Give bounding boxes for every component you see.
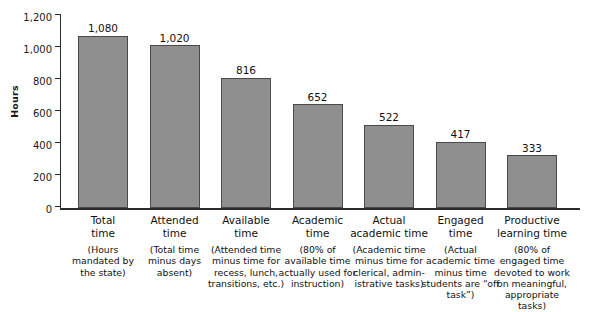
category-label: Actualacademic time(Academic time minus … xyxy=(350,214,428,289)
bar-value-label: 1,080 xyxy=(66,23,140,34)
category-name-line2: time xyxy=(279,227,357,240)
category-description: (Hours mandated by the state) xyxy=(64,244,142,278)
category-description: (Actual academic time minus time student… xyxy=(422,244,500,300)
category-name-line1: Productive xyxy=(493,214,571,227)
y-tick-400 xyxy=(55,142,61,143)
y-tick-800 xyxy=(55,78,61,79)
bar-value-label: 417 xyxy=(424,129,498,140)
bar-value-label: 1,020 xyxy=(138,33,212,44)
category-name-line2: time xyxy=(136,227,214,240)
y-tick-label-600: 600 xyxy=(8,109,52,119)
bar xyxy=(364,125,414,209)
category-description: (Attended time minus time for recess, lu… xyxy=(207,244,285,289)
category-name-line1: Available xyxy=(207,214,285,227)
y-tick-label-200: 200 xyxy=(8,173,52,183)
y-tick-200 xyxy=(55,174,61,175)
bar xyxy=(507,155,557,208)
y-tick-0 xyxy=(55,206,61,207)
bar xyxy=(150,45,200,208)
category-name-line2: time xyxy=(64,227,142,240)
category-label: Academictime(80% of available time actua… xyxy=(279,214,357,289)
category-name-line2: time xyxy=(422,227,500,240)
category-name-line1: Actual xyxy=(350,214,428,227)
category-name-line1: Attended xyxy=(136,214,214,227)
category-name-line2: academic time xyxy=(350,227,428,240)
bar xyxy=(78,36,128,209)
category-label: Totaltime(Hours mandated by the state) xyxy=(64,214,142,278)
category-label: Attendedtime(Total time minus days absen… xyxy=(136,214,214,278)
bar xyxy=(436,142,486,209)
y-tick-600 xyxy=(55,110,61,111)
y-tick-1000 xyxy=(55,46,61,47)
bar xyxy=(293,104,343,208)
bar-value-label: 652 xyxy=(281,92,355,103)
category-name-line2: learning time xyxy=(493,227,571,240)
category-description: (Academic time minus time for clerical, … xyxy=(350,244,428,289)
y-tick-1200 xyxy=(55,14,61,15)
category-label: Availabletime(Attended time minus time f… xyxy=(207,214,285,289)
y-tick-label-400: 400 xyxy=(8,141,52,151)
category-name-line1: Total xyxy=(64,214,142,227)
bar xyxy=(221,78,271,209)
y-tick-label-800: 800 xyxy=(8,77,52,87)
category-label: Productivelearning time(80% of engaged t… xyxy=(493,214,571,312)
y-tick-label-1200: 1,200 xyxy=(8,13,52,23)
x-axis-line xyxy=(60,208,580,210)
category-description: (80% of available time actually used for… xyxy=(279,244,357,289)
bar-value-label: 333 xyxy=(495,143,569,154)
bar-value-label: 522 xyxy=(352,112,426,123)
category-name-line2: time xyxy=(207,227,285,240)
bar-value-label: 816 xyxy=(209,65,283,76)
category-description: (Total time minus days absent) xyxy=(136,244,214,278)
y-axis-line xyxy=(60,14,61,210)
category-description: (80% of engaged time devoted to work on … xyxy=(493,244,571,312)
plot-area xyxy=(60,18,580,210)
category-label: Engagedtime(Actual academic time minus t… xyxy=(422,214,500,300)
y-tick-label-0: 0 xyxy=(8,205,52,215)
category-name-line1: Academic xyxy=(279,214,357,227)
category-name-line1: Engaged xyxy=(422,214,500,227)
y-tick-label-1000: 1,000 xyxy=(8,45,52,55)
